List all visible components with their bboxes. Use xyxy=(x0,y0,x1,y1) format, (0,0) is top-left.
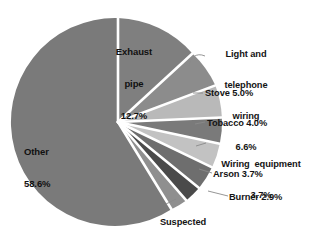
slice-label-burner: Burner 2.9% xyxy=(229,192,315,202)
slice-label-light-line1: Light and xyxy=(205,49,287,59)
slice-label-wiring-equipment: Wiring equipment 3.7% xyxy=(206,138,316,221)
slice-label-wiring-equipment-line1: Wiring equipment xyxy=(206,159,316,169)
slice-label-suspected-arson-line1: Suspected xyxy=(145,217,221,227)
slice-label-arson: Arson 3.7% xyxy=(213,169,293,179)
slice-label-tobacco: Tobacco 4.0% xyxy=(207,118,301,128)
slice-label-suspected-arson: Suspected arson 2.8% xyxy=(145,196,221,241)
slice-value-other: 58.6% xyxy=(24,179,84,190)
slice-label-exhaust-pipe: Exhaust pipe 12.7% xyxy=(101,26,167,143)
slice-label-stove: Stove 5.0% xyxy=(205,88,297,98)
slice-label-other-line1: Other xyxy=(24,147,84,158)
slice-value-exhaust-pipe: 12.7% xyxy=(101,111,167,122)
slice-label-exhaust-pipe-line2: pipe xyxy=(101,79,167,90)
slice-label-other: Other 58.6% xyxy=(24,126,84,211)
slice-label-exhaust-pipe-line1: Exhaust xyxy=(101,47,167,58)
pie-chart: Exhaust pipe 12.7% Other 58.6% Light and… xyxy=(0,0,319,241)
